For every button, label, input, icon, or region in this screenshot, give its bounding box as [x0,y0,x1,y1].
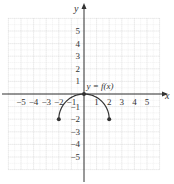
function-label: y = f(x) [86,81,114,91]
endpoint-dot [57,117,61,121]
endpoint-dot [107,117,111,121]
x-tick-label: 2 [107,97,112,107]
x-axis-label: x [164,90,170,101]
x-tick-label: 3 [120,97,125,107]
y-tick-label: −4 [70,139,80,149]
y-tick-label: −1 [70,102,80,112]
x-tick-label: −3 [41,97,51,107]
endpoint-dot [82,92,86,96]
y-tick-label: 2 [76,64,81,74]
y-tick-label: −3 [70,127,80,137]
function-graph: −5−4−3−2−11234554321−1−2−3−4−5 x y y = f… [0,0,174,184]
y-axis-label: y [73,3,79,14]
y-tick-label: 5 [76,26,81,36]
y-tick-label: 4 [76,39,81,49]
y-tick-label: 1 [76,76,81,86]
y-axis-arrow [82,3,87,9]
x-tick-label: −5 [16,97,26,107]
x-tick-label: 5 [145,97,150,107]
x-tick-label: 4 [132,97,137,107]
y-tick-label: 3 [76,51,81,61]
y-tick-label: −5 [70,152,80,162]
y-tick-label: −2 [70,114,80,124]
x-tick-label: −2 [54,97,64,107]
x-tick-label: −4 [29,97,39,107]
